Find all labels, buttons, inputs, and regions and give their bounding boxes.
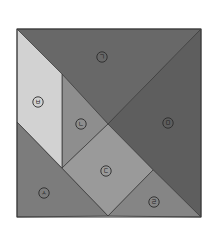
label-text: ㄱ [99, 53, 105, 61]
label-text: ㄴ [78, 120, 84, 128]
label-text: ㅂ [35, 98, 41, 106]
label-text: ㄷ [103, 167, 109, 175]
label-text: ㅅ [41, 189, 47, 197]
label-text: ㅁ [165, 119, 171, 127]
label-text: ㄹ [151, 198, 157, 206]
tangram-diagram: ㄱㅁㄴㄷㄹㅂㅅ [0, 0, 212, 233]
